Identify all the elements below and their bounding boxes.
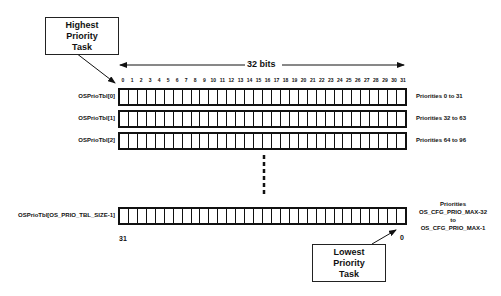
bit-cell xyxy=(361,112,370,126)
bit-cell xyxy=(335,209,344,223)
bit-cell xyxy=(317,90,326,104)
bit-cell xyxy=(192,209,201,223)
bit-cell xyxy=(129,209,138,223)
priorities-line: OS_CFG_PRIO_MAX-32 xyxy=(413,208,493,216)
bit-cell xyxy=(326,90,335,104)
bit-number: 25 xyxy=(346,77,352,83)
bit-cell xyxy=(388,112,397,126)
bit-cell xyxy=(120,134,129,148)
bit-number: 20 xyxy=(301,77,307,83)
bit-cell xyxy=(352,90,361,104)
bit-cell xyxy=(218,134,227,148)
bit-number: 17 xyxy=(274,77,280,83)
bit-number: 15 xyxy=(256,77,262,83)
bit-cell xyxy=(156,112,165,126)
bit-cell xyxy=(317,209,326,223)
callout-line: Highest xyxy=(46,20,118,31)
bit-number: 2 xyxy=(140,77,143,83)
bit-cell xyxy=(183,90,192,104)
bit-cell xyxy=(165,134,174,148)
bit-cell xyxy=(245,112,254,126)
bit-cell xyxy=(129,112,138,126)
bit-number: 18 xyxy=(283,77,289,83)
bit-number: 9 xyxy=(203,77,206,83)
bit-number: 6 xyxy=(176,77,179,83)
bit-cell xyxy=(370,209,379,223)
bit-cell xyxy=(317,112,326,126)
bit-number: 0 xyxy=(122,77,125,83)
bit-cell xyxy=(227,112,236,126)
bit-cell xyxy=(209,112,218,126)
bit-cell xyxy=(290,134,299,148)
bit-row-0 xyxy=(118,88,407,106)
bit-cell xyxy=(227,209,236,223)
bit-cell xyxy=(156,209,165,223)
bit-number: 7 xyxy=(185,77,188,83)
bit-cell xyxy=(165,90,174,104)
priorities-line: OS_CFG_PRIO_MAX-1 xyxy=(413,224,493,232)
bit-number: 1 xyxy=(131,77,134,83)
bit-cell xyxy=(343,209,352,223)
bit-cell xyxy=(254,134,263,148)
callout-line: Lowest xyxy=(313,247,385,258)
bit-cell xyxy=(335,112,344,126)
bit-number: 28 xyxy=(373,77,379,83)
bit-cell xyxy=(218,209,227,223)
bit-cell xyxy=(165,209,174,223)
bit-cell xyxy=(192,134,201,148)
bit-cell xyxy=(281,209,290,223)
width-label: 32 bits xyxy=(247,59,276,69)
bit-cell xyxy=(326,209,335,223)
bit-cell xyxy=(156,90,165,104)
bit-cell xyxy=(388,209,397,223)
bit-cell xyxy=(343,112,352,126)
bit-number: 26 xyxy=(355,77,361,83)
bit-cell xyxy=(218,112,227,126)
callout-line: Priority xyxy=(46,31,118,42)
bit-number: 8 xyxy=(194,77,197,83)
bit-cell xyxy=(183,209,192,223)
bit-cell xyxy=(174,90,183,104)
bit-cell xyxy=(343,90,352,104)
bit-number: 29 xyxy=(382,77,388,83)
bit-cell xyxy=(343,134,352,148)
bit-cell xyxy=(290,90,299,104)
bit-cell xyxy=(165,112,174,126)
row-priorities: Priorities 32 to 63 xyxy=(416,115,466,121)
bit-number: 11 xyxy=(220,77,225,83)
bit-cell xyxy=(352,209,361,223)
bit-cell xyxy=(272,112,281,126)
row-label: OSPrioTbl[2] xyxy=(78,137,115,143)
bit-cell xyxy=(200,90,209,104)
bit-cell xyxy=(209,90,218,104)
bit-cell xyxy=(379,134,388,148)
bit-cell xyxy=(290,112,299,126)
bit-cell xyxy=(227,134,236,148)
bit-cell xyxy=(317,134,326,148)
bit-cell xyxy=(138,90,147,104)
bit-row-last xyxy=(118,207,407,225)
bit-cell xyxy=(138,134,147,148)
bit-cell xyxy=(326,134,335,148)
bit-cell xyxy=(236,209,245,223)
bit-cell xyxy=(379,112,388,126)
bit-cell xyxy=(397,134,405,148)
bit-number: 27 xyxy=(364,77,370,83)
bit-number: 19 xyxy=(292,77,298,83)
bit-cell xyxy=(254,90,263,104)
bit-cell xyxy=(120,209,129,223)
priorities-line: Priorities xyxy=(413,200,493,208)
highest-priority-callout: Highest Priority Task xyxy=(45,17,119,55)
bit-cell xyxy=(263,209,272,223)
bit-cell xyxy=(352,112,361,126)
bit-number: 4 xyxy=(158,77,161,83)
bit-cell xyxy=(379,209,388,223)
bit-cell xyxy=(335,90,344,104)
bit-cell xyxy=(120,90,129,104)
bit-cell xyxy=(192,112,201,126)
bit-cell xyxy=(183,112,192,126)
bit-cell xyxy=(174,134,183,148)
bit-cell xyxy=(254,209,263,223)
bit-cell xyxy=(254,112,263,126)
bit-cell xyxy=(352,134,361,148)
